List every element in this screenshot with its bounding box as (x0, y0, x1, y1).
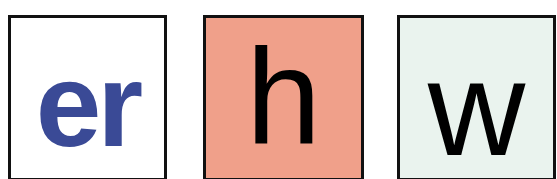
tile-er: er (8, 15, 167, 179)
letter-w: w (428, 41, 526, 176)
tile-w: w (397, 15, 556, 179)
letters-er: er (36, 46, 140, 164)
letter-h: h (246, 29, 321, 164)
tile-h: h (203, 15, 364, 179)
